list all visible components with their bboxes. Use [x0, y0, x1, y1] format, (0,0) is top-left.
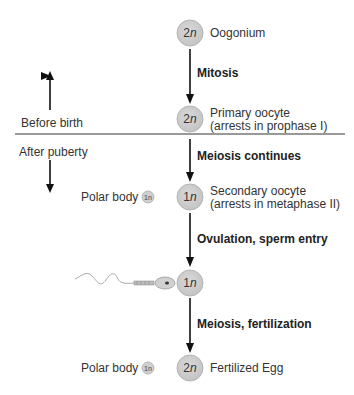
svg-text:1n: 1n — [183, 276, 197, 290]
arrow-down-icon — [186, 343, 194, 353]
label-secondary-oocyte-note: (arrests in metaphase II) — [210, 197, 340, 211]
svg-text:2n: 2n — [183, 361, 197, 375]
oogenesis-diagram: 2n 2n 1n 1n 2n 1n 1n — [0, 0, 354, 395]
label-oogonium: Oogonium — [210, 26, 265, 40]
svg-text:1n: 1n — [183, 190, 197, 204]
transition-meiosis-fertilization: Meiosis, fertilization — [197, 317, 312, 331]
cell-primary-oocyte: 2n — [177, 106, 203, 132]
polar-body-2: 1n — [142, 362, 154, 374]
cell-secondary-oocyte: 1n — [177, 184, 203, 210]
svg-text:2n: 2n — [183, 112, 197, 126]
polar-body-1: 1n — [142, 191, 154, 203]
arrow-down-icon — [186, 94, 194, 104]
arrow-down-icon — [186, 172, 194, 182]
svg-text:1n: 1n — [144, 365, 152, 372]
label-before-birth: Before birth — [21, 116, 83, 130]
label-primary-oocyte: Primary oocyte — [210, 106, 290, 120]
svg-text:2n: 2n — [183, 26, 197, 40]
label-secondary-oocyte: Secondary oocyte — [210, 184, 306, 198]
cell-oogonium: 2n — [177, 20, 203, 46]
sperm-icon — [75, 273, 175, 289]
transition-mitosis: Mitosis — [197, 66, 238, 80]
transition-meiosis-continues: Meiosis continues — [197, 149, 301, 163]
transition-ovulation: Ovulation, sperm entry — [197, 232, 328, 246]
cell-fertilized-egg: 2n — [177, 355, 203, 381]
label-polar-body-2: Polar body — [81, 361, 138, 375]
label-primary-oocyte-note: (arrests in prophase I) — [210, 119, 327, 133]
label-after-puberty: After puberty — [19, 145, 88, 159]
arrow-down-icon — [186, 257, 194, 267]
label-fertilized-egg: Fertilized Egg — [210, 361, 283, 375]
cell-ovulated-oocyte: 1n — [177, 270, 203, 296]
svg-text:1n: 1n — [144, 194, 152, 201]
label-polar-body-1: Polar body — [81, 190, 138, 204]
